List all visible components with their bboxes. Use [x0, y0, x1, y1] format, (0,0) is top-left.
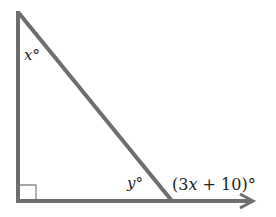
degree-symbol: ° [32, 46, 40, 64]
hypotenuse [18, 12, 172, 201]
degree-symbol: ° [135, 174, 143, 192]
expr-open: (3 [172, 175, 188, 194]
right-angle-marker [20, 185, 36, 199]
angle-x-label: x° [24, 48, 40, 63]
expr-rest: + 10) [197, 175, 247, 194]
diagram-canvas: x° y° (3x + 10)° [0, 0, 276, 217]
angle-y-label: y° [127, 176, 143, 191]
degree-symbol: ° [248, 175, 256, 194]
exterior-angle-label: (3x + 10)° [172, 177, 256, 193]
